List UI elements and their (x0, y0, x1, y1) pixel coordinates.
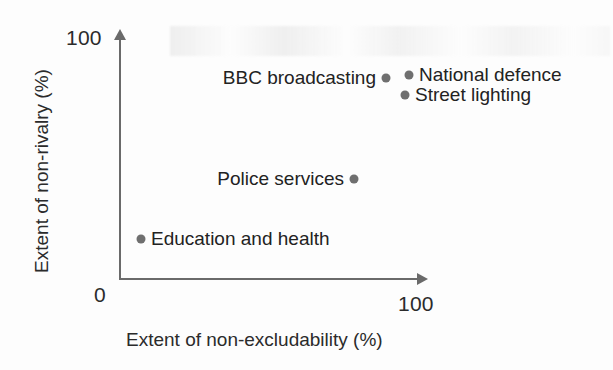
x-axis-title: Extent of non-excludability (%) (126, 329, 383, 351)
scatter-chart-figure: 100 0 100 Extent of non-rivalry (%) Exte… (0, 0, 613, 370)
data-point-label: BBC broadcasting (223, 67, 376, 89)
data-point-label: Street lighting (415, 84, 531, 106)
y-axis-line (119, 38, 121, 280)
data-point-label: Education and health (151, 228, 330, 250)
y-axis-arrow-icon (114, 29, 126, 40)
x-axis-arrow-icon (417, 273, 428, 285)
data-point (137, 235, 146, 244)
data-point (405, 71, 414, 80)
y-axis-title: Extent of non-rivalry (%) (31, 47, 53, 295)
axis-origin-label: 0 (94, 283, 106, 307)
x-axis-tick-label-100: 100 (398, 292, 434, 316)
data-point-label: Police services (217, 168, 344, 190)
data-point (350, 175, 359, 184)
data-point-label: National defence (419, 64, 562, 86)
data-point (401, 91, 410, 100)
scan-bleed-artifact (170, 26, 610, 56)
y-axis-tick-label-100: 100 (66, 26, 102, 50)
data-point (382, 74, 391, 83)
x-axis-line (119, 278, 419, 280)
